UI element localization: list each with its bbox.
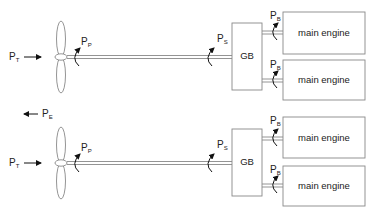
propeller-blade-lower-icon [57,163,66,199]
brake-power-label: PB [270,116,281,129]
main-engine-label: main engine [283,132,365,143]
shaft-line-2 [55,117,365,206]
symbol-sub: P [88,148,92,154]
main-engine-label: main engine [283,74,365,85]
symbol-main: P [270,115,277,126]
propeller-hub-icon [55,160,67,166]
gearbox-label: GB [232,156,262,167]
shaft-power-label: PS [217,34,228,47]
brake-power-label: PB [270,11,281,24]
shaft-power-label: PS [217,140,228,153]
symbol-sub: B [277,65,281,71]
brake-power-label: PB [270,165,281,178]
propeller-power-label: PP [81,143,92,156]
main-engine-label: main engine [283,27,365,38]
propeller-blade-lower-icon [57,57,66,93]
symbol-sub: S [224,145,228,151]
symbol-main: P [81,36,88,47]
symbol-sub: T [16,57,20,63]
symbol-main: P [270,164,277,175]
effective-power-label: PE [42,109,53,122]
symbol-main: P [217,33,224,44]
symbol-sub: B [277,16,281,22]
symbol-main: P [9,51,16,62]
symbol-main: P [81,142,88,153]
symbol-sub: B [277,170,281,176]
symbol-sub: B [277,121,281,127]
symbol-sub: S [224,39,228,45]
symbol-main: P [270,59,277,70]
propeller-blade-upper-icon [57,21,66,57]
symbol-main: P [9,157,16,168]
brake-power-label: PB [270,60,281,73]
thrust-power-label: PT [9,158,19,171]
propeller-power-label: PP [81,37,92,50]
symbol-sub: P [88,42,92,48]
shaft-line-1 [55,12,365,100]
symbol-sub: T [16,163,20,169]
thrust-power-label: PT [9,52,19,65]
symbol-main: P [217,139,224,150]
gearbox-label: GB [232,50,262,61]
symbol-sub: E [49,114,53,120]
main-engine-label: main engine [283,180,365,191]
symbol-main: P [42,108,49,119]
propeller-blade-upper-icon [57,127,66,163]
symbol-main: P [270,10,277,21]
propeller-hub-icon [55,54,67,60]
